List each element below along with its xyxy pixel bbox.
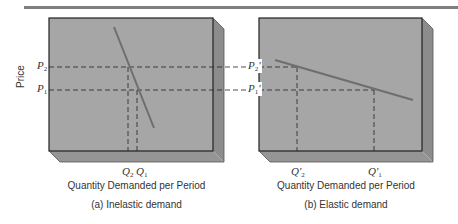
p1-prime-label: P1' bbox=[247, 82, 262, 96]
q1-prime-label: Q'1 bbox=[368, 165, 382, 179]
panel-inelastic bbox=[49, 18, 259, 162]
top-rule bbox=[24, 6, 458, 9]
q2-prime-label: Q'2 bbox=[291, 165, 305, 179]
caption-elastic: (b) Elastic demand bbox=[259, 199, 433, 210]
price-axis-label: Price bbox=[15, 65, 26, 88]
p2-prime-label: P2' bbox=[247, 59, 262, 73]
x-axis-label-left: Quantity Demanded per Period bbox=[49, 180, 224, 191]
p1-label: P1 bbox=[37, 82, 47, 96]
caption-inelastic: (a) Inelastic demand bbox=[49, 199, 224, 210]
q1-label: Q1 bbox=[136, 165, 147, 179]
p2-label: P2 bbox=[37, 59, 47, 73]
panel-elastic bbox=[259, 18, 433, 162]
x-axis-label-right: Quantity Demanded per Period bbox=[259, 180, 433, 191]
q2-label: Q2 bbox=[122, 165, 133, 179]
